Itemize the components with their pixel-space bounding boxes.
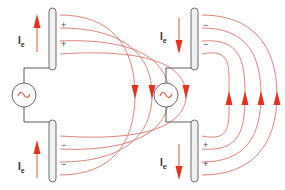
current-head-lower — [34, 140, 41, 154]
diagram-canvas: + + − − Ie Ie — [0, 0, 285, 190]
left-current-arrow-upper — [34, 14, 41, 52]
antenna-field-figure: + + − − Ie Ie — [0, 0, 285, 190]
charge-sign-lower-2: + — [203, 159, 208, 169]
charge-sign-upper-1: + — [61, 20, 66, 30]
right-ac-source[interactable] — [154, 83, 178, 107]
current-head-upper — [34, 14, 41, 28]
wire-lower — [24, 107, 52, 122]
charge-sign-upper-2: + — [61, 39, 66, 49]
current-label-upper: Ie — [160, 31, 167, 44]
field-arrow-2 — [242, 91, 249, 105]
charge-sign-lower-2: − — [61, 159, 66, 169]
current-label-lower: Ie — [160, 157, 167, 170]
right-panel: − − + + Ie Ie — [154, 8, 281, 182]
right-electric-field-lines — [202, 15, 277, 175]
right-current-arrow-lower — [176, 144, 183, 180]
field-line-4 — [202, 53, 229, 137]
field-arrow-4 — [274, 91, 281, 105]
left-ac-source[interactable] — [12, 83, 36, 107]
lower-rod-body — [191, 120, 198, 182]
right-field-arrowheads — [226, 91, 281, 105]
wire-upper — [24, 68, 52, 83]
field-arrow-4 — [183, 85, 190, 99]
charge-sign-lower-1: + — [203, 140, 208, 150]
left-lower-rod — [49, 120, 56, 182]
field-arrow-1 — [226, 91, 233, 105]
field-line-2 — [60, 28, 152, 162]
current-label-upper-sub: e — [21, 41, 25, 48]
field-arrow-1 — [132, 85, 139, 99]
charge-sign-upper-1: − — [203, 20, 208, 30]
current-label-lower-sub: e — [21, 167, 25, 174]
charge-sign-upper-2: − — [203, 39, 208, 49]
upper-rod-body — [49, 8, 56, 70]
left-current-arrow-lower — [34, 140, 41, 178]
current-label-lower: Ie — [18, 161, 25, 174]
field-line-1 — [60, 15, 135, 175]
wire-upper — [166, 68, 194, 83]
current-label-upper: Ie — [18, 35, 25, 48]
right-upper-rod — [191, 8, 198, 70]
charge-sign-lower-1: − — [61, 140, 66, 150]
field-line-1 — [202, 15, 277, 175]
upper-rod-body — [191, 8, 198, 70]
lower-rod-body — [49, 120, 56, 182]
right-current-arrow-upper — [176, 18, 183, 54]
current-label-lower-sub: e — [163, 163, 167, 170]
right-lower-rod — [191, 120, 198, 182]
field-arrow-3 — [258, 91, 265, 105]
field-line-2 — [202, 28, 261, 162]
current-head-upper — [176, 40, 183, 54]
current-label-upper-sub: e — [163, 37, 167, 44]
current-head-lower — [176, 166, 183, 180]
left-upper-rod — [49, 8, 56, 70]
wire-lower — [166, 107, 194, 122]
